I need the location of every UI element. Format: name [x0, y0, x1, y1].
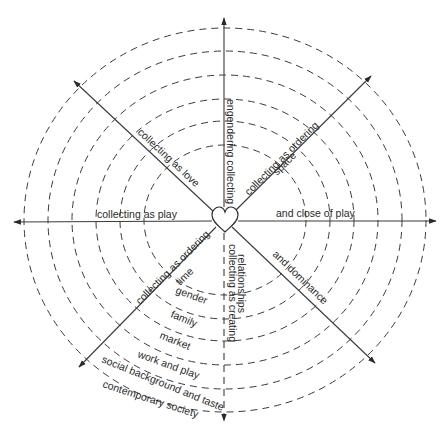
axis-left-arrow — [14, 221, 212, 222]
label-engendering-collecting: engendering collecting — [225, 99, 237, 204]
ring-label-family: family — [169, 308, 200, 330]
axis-upper-left-arrow — [74, 81, 214, 212]
label-collecting-as-play: collecting as play — [97, 208, 178, 220]
label-and-close-of-play: and close of play — [276, 207, 356, 219]
label-collecting-as-love: collecting as love — [136, 126, 203, 189]
ring-labels-group: gender family market work and play socia… — [100, 284, 226, 420]
collecting-radial-diagram: engendering collecting collecting as ord… — [0, 0, 444, 437]
axis-lower-right-arrow — [232, 227, 375, 363]
ring-label-gender: gender — [174, 284, 209, 307]
label-relationships: relationships — [236, 254, 248, 313]
label-and-dominance: and dominance — [271, 248, 331, 307]
